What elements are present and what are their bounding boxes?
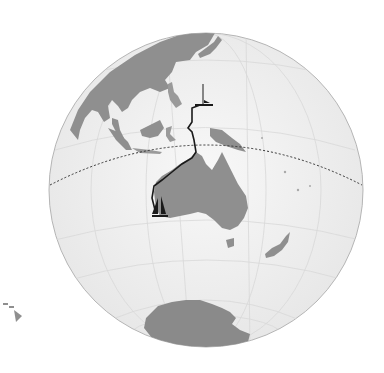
globe-map: [0, 0, 384, 373]
inset-hawaii: [3, 303, 22, 322]
